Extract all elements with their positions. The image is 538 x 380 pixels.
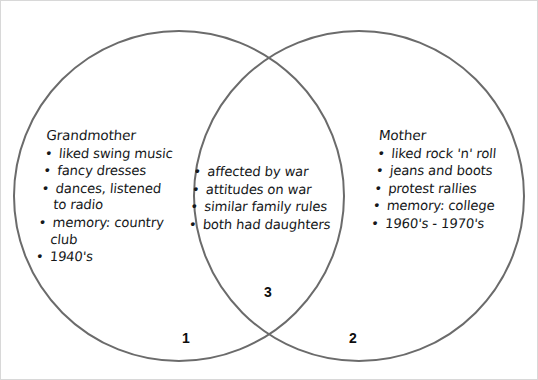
list-item: • protest rallies <box>374 181 497 198</box>
bullet-icon: • <box>377 146 386 163</box>
list-item: • liked swing music <box>44 146 173 163</box>
list-item-line1: memory: country <box>52 215 164 230</box>
region-label-overlap: 3 <box>264 285 272 299</box>
list-item: • memory: college <box>372 198 495 215</box>
list-item-line1: attitudes on war <box>205 182 312 197</box>
list-item: • jeans and boots <box>375 163 498 180</box>
list-item-line1: 1940's <box>49 249 93 264</box>
bullet-icon: • <box>375 163 384 180</box>
list-item-line1: memory: college <box>386 198 495 213</box>
bullet-icon: • <box>188 217 197 234</box>
left-set-list: • liked swing music • fancy dresses • da… <box>35 146 173 266</box>
bullet-icon: • <box>193 164 202 181</box>
list-item-line1: both had daughters <box>202 217 331 232</box>
bullet-icon: • <box>374 181 383 198</box>
right-set-heading: Mother <box>378 127 501 144</box>
intersection-set-list: • affected by war • attitudes on war • s… <box>188 164 336 233</box>
bullet-icon: • <box>42 163 51 180</box>
list-item-line2: to radio <box>53 197 169 214</box>
list-item: • 1940's <box>35 249 164 266</box>
list-item: • memory: country club <box>37 215 168 248</box>
list-item: • liked rock 'n' roll <box>377 146 500 163</box>
venn-diagram-canvas: Grandmother • liked swing music • fancy … <box>0 0 538 380</box>
intersection-set-text-block: • affected by war • attitudes on war • s… <box>188 164 336 234</box>
list-item: • fancy dresses <box>42 163 171 180</box>
bullet-icon: • <box>41 181 50 198</box>
left-set-heading: Grandmother <box>46 127 175 144</box>
list-item-line1: 1960's - 1970's <box>385 216 485 231</box>
list-item: • affected by war <box>193 164 336 181</box>
bullet-icon: • <box>372 198 381 215</box>
list-item-line1: liked rock 'n' roll <box>391 146 497 161</box>
right-set-text-block: Mother • liked rock 'n' roll • jeans and… <box>370 127 501 234</box>
bullet-icon: • <box>191 182 200 199</box>
region-label-left-only: 1 <box>182 331 190 345</box>
list-item-line1: jeans and boots <box>389 163 493 178</box>
list-item-line2: club <box>50 232 166 249</box>
list-item: • 1960's - 1970's <box>370 216 493 233</box>
list-item: • attitudes on war <box>191 182 334 199</box>
list-item-line1: similar family rules <box>204 199 328 214</box>
bullet-icon: • <box>190 199 199 216</box>
bullet-icon: • <box>370 216 379 233</box>
bullet-icon: • <box>35 249 44 266</box>
list-item-line1: fancy dresses <box>57 163 147 178</box>
list-item: • both had daughters <box>188 217 331 234</box>
right-set-list: • liked rock 'n' roll • jeans and boots … <box>370 146 499 233</box>
bullet-icon: • <box>38 215 47 232</box>
list-item: • dances, listened to radio <box>40 181 171 214</box>
list-item-line1: dances, listened <box>55 181 162 196</box>
list-item-line1: liked swing music <box>58 146 173 161</box>
bullet-icon: • <box>44 146 53 163</box>
list-item-line1: affected by war <box>207 164 309 179</box>
region-label-right-only: 2 <box>349 331 357 345</box>
left-set-text-block: Grandmother • liked swing music • fancy … <box>35 127 175 267</box>
list-item-line1: protest rallies <box>388 181 478 196</box>
list-item: • similar family rules <box>190 199 333 216</box>
